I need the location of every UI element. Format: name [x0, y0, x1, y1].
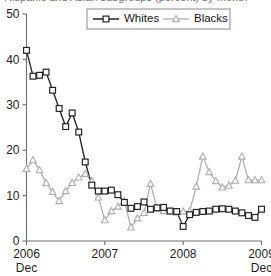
y-tick-label: 10 — [6, 189, 20, 203]
data-point-marker — [108, 207, 115, 213]
data-point-marker — [246, 213, 252, 219]
chart-container: Hispanic and Asian subgroups (percent) b… — [0, 0, 271, 276]
data-point-marker — [259, 206, 265, 212]
data-point-marker — [200, 209, 206, 215]
legend-label-blacks: Blacks — [194, 12, 228, 24]
data-point-marker — [148, 206, 154, 212]
data-point-marker — [103, 16, 109, 22]
data-point-marker — [154, 205, 160, 211]
data-point-marker — [82, 159, 88, 165]
data-point-marker — [187, 212, 193, 218]
data-point-marker — [43, 69, 49, 75]
data-point-marker — [213, 206, 219, 212]
x-tick-label: 2006 — [13, 247, 40, 261]
data-point-marker — [232, 208, 238, 214]
data-point-marker — [206, 168, 213, 174]
series-markers-blacks — [23, 153, 265, 230]
data-point-marker — [180, 224, 186, 230]
data-point-marker — [135, 204, 141, 210]
data-point-marker — [43, 179, 50, 185]
data-point-marker — [239, 153, 246, 159]
data-point-marker — [30, 73, 36, 79]
data-point-marker — [239, 210, 245, 216]
data-point-marker — [30, 157, 37, 163]
legend-marker-whites — [103, 16, 109, 22]
data-point-marker — [63, 124, 69, 130]
data-point-marker — [102, 188, 108, 194]
data-point-marker — [24, 47, 30, 53]
y-axis: 01020304050 — [6, 7, 26, 248]
x-tick-sublabel: Dec — [16, 261, 37, 275]
data-point-marker — [232, 177, 239, 183]
x-axis: 2006Dec200720082009Dec — [13, 241, 271, 275]
data-point-marker — [167, 208, 173, 214]
series-layer — [23, 47, 265, 230]
data-point-marker — [69, 110, 75, 116]
data-point-marker — [76, 129, 82, 135]
x-tick-sublabel: Dec — [251, 261, 271, 275]
data-point-marker — [193, 183, 200, 189]
data-point-marker — [89, 182, 95, 188]
data-point-marker — [50, 87, 56, 93]
series-line-blacks — [27, 157, 262, 228]
data-point-marker — [161, 205, 167, 211]
data-point-marker — [108, 187, 114, 193]
data-point-marker — [37, 72, 43, 78]
x-tick-label: 2007 — [91, 247, 118, 261]
chart-legend: WhitesBlacks — [87, 9, 230, 29]
data-point-marker — [141, 209, 148, 215]
y-tick-label: 50 — [6, 7, 20, 21]
data-point-marker — [95, 194, 102, 200]
y-tick-label: 20 — [6, 143, 20, 157]
data-point-marker — [226, 182, 233, 188]
legend-label-whites: Whites — [124, 12, 159, 24]
y-tick-label: 30 — [6, 98, 20, 112]
data-point-marker — [226, 206, 232, 212]
data-point-marker — [252, 214, 258, 220]
data-point-marker — [147, 180, 154, 186]
data-point-marker — [193, 209, 199, 215]
line-chart: 01020304050 2006Dec200720082009Dec White… — [0, 0, 271, 276]
data-point-marker — [199, 153, 206, 159]
x-tick-label: 2008 — [170, 247, 197, 261]
data-point-marker — [219, 206, 225, 212]
data-point-marker — [115, 192, 121, 198]
data-point-marker — [141, 199, 147, 205]
data-point-marker — [56, 106, 62, 112]
data-point-marker — [122, 200, 128, 206]
data-point-marker — [174, 209, 180, 215]
data-point-marker — [128, 205, 134, 211]
data-point-marker — [95, 188, 101, 194]
y-tick-label: 40 — [6, 53, 20, 67]
x-tick-label: 2009 — [248, 247, 271, 261]
data-point-marker — [206, 208, 212, 214]
